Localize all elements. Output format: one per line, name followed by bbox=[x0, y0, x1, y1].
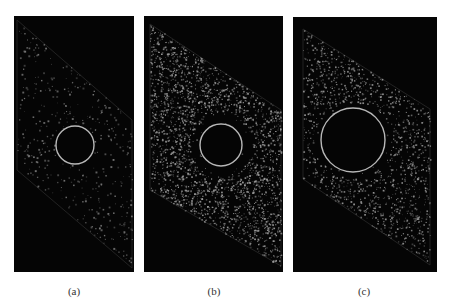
inclusion-ring bbox=[56, 126, 94, 164]
mesh-particles bbox=[150, 25, 283, 266]
mesh-particles bbox=[18, 28, 133, 264]
band-outline bbox=[150, 24, 281, 266]
panel-c-mesh-image bbox=[293, 17, 437, 272]
panel-a-mesh-image bbox=[14, 16, 134, 272]
mesh-plot-c bbox=[293, 17, 437, 272]
panel-b-mesh-image bbox=[144, 16, 283, 272]
caption-a: (a) bbox=[54, 285, 94, 297]
inclusion-ring bbox=[200, 124, 242, 166]
caption-b: (b) bbox=[194, 285, 234, 297]
mesh-particles bbox=[303, 30, 431, 261]
caption-c: (c) bbox=[344, 285, 384, 297]
inclusion-ring bbox=[321, 108, 385, 172]
mesh-plot-b bbox=[144, 16, 283, 272]
mesh-plot-a bbox=[14, 16, 134, 272]
